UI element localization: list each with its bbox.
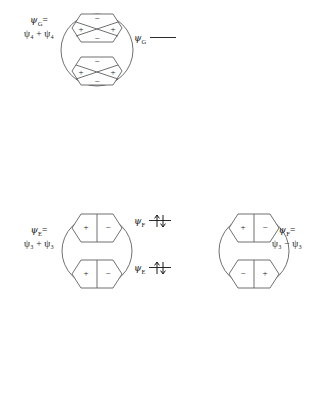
sign-G-bottom-n: − (94, 56, 99, 66)
sign-G-bottom-e: + (110, 67, 115, 77)
orbital-row-psiCD: ψC= ψ₂ + ψ₂ + − + − ψD (0, 199, 321, 300)
equals-sign: = (42, 15, 48, 25)
orbital-diagram-G: − + + − − + + − (58, 2, 136, 98)
orbital-row-psiG: ψG= ψ₄ + ψ₄ − + + − − + + (0, 0, 321, 100)
energy-level-label-psiG: ψG (134, 32, 146, 45)
figure-canvas: ψG= ψ₄ + ψ₄ − + + − − + + (0, 0, 321, 401)
sign-G-top-s: − (94, 33, 99, 43)
sign-G-bottom-w: + (78, 67, 83, 77)
sign-G-top-w: + (78, 24, 83, 34)
energy-level-line-psiG[interactable] (150, 31, 172, 45)
psi-glyph: ψ (30, 14, 38, 25)
sign-G-bottom-s: − (94, 76, 99, 86)
sign-G-top-e: + (110, 24, 115, 34)
sign-G-top-n: − (94, 13, 99, 23)
orbital-row-psiAB: ψA= ψ₁ + ψ₁ + + ψB (0, 300, 321, 401)
orbital-row-psiEF: ψE= ψ₃ + ψ₃ + − + − ψF (0, 100, 321, 199)
energy-level-psiG[interactable]: ψG (134, 31, 172, 45)
